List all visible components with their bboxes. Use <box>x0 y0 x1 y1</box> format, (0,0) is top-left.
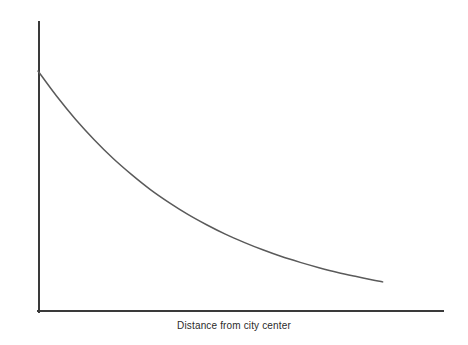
series-group <box>38 71 383 282</box>
x-axis-label: Distance from city center <box>0 321 468 331</box>
chart-plot-area <box>0 0 468 345</box>
data-curve-land-price <box>38 71 383 282</box>
chart-container: Distance from city center Price of land … <box>0 0 468 345</box>
axes-group <box>38 22 443 312</box>
